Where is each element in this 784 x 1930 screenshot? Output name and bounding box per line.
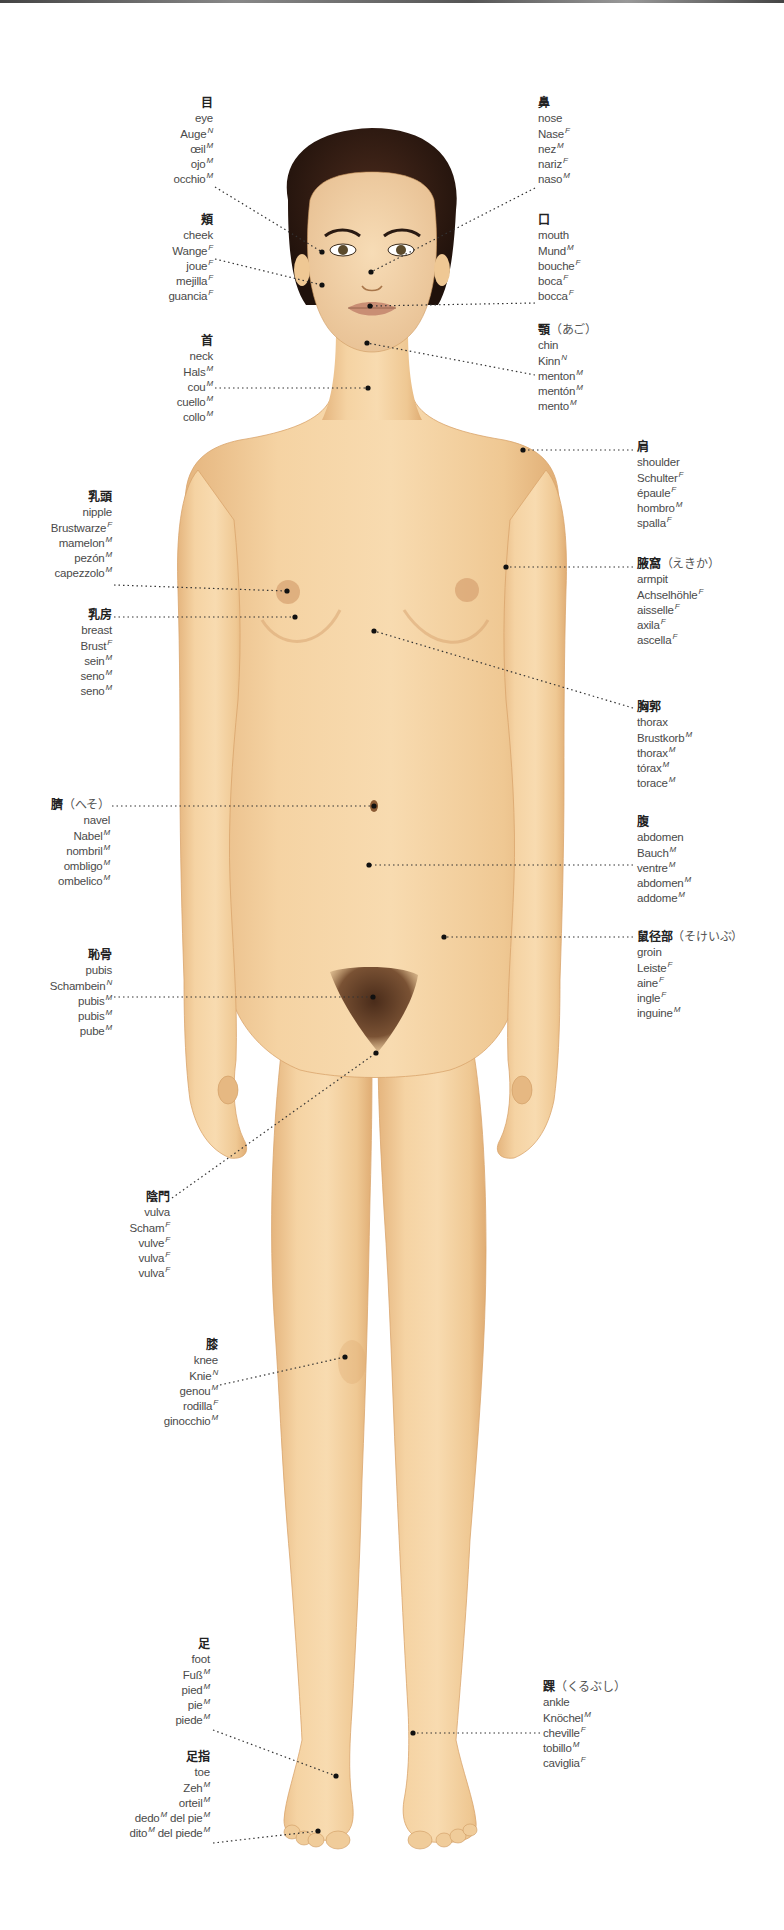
translation-term: ombelicoM <box>51 874 110 889</box>
translation-term: NaseF <box>538 127 570 142</box>
label-abdomen: 腹 abdomenBauchMventreMabdomenMaddomeM <box>637 815 691 907</box>
label-ankle: 踝（くるぶし） ankleKnöchelMchevilleFtobilloMca… <box>543 1680 626 1772</box>
english-term: neck <box>177 349 213 364</box>
translation-term: BrustF <box>80 639 112 654</box>
gender-marker: M <box>676 500 682 509</box>
english-term: armpit <box>637 572 720 587</box>
gender-marker: M <box>570 398 576 407</box>
translation-term: ditoM del piedeM <box>129 1826 210 1841</box>
label-toe-japanese: 足指 <box>129 1750 210 1765</box>
translation-term: ojoM <box>173 157 213 172</box>
english-term: nipple <box>51 505 112 520</box>
marker-dot-mouth <box>367 303 372 308</box>
translation-term: vulveF <box>130 1236 170 1251</box>
marker-dot-nose <box>368 269 373 274</box>
kana-reading: （あご） <box>550 323 597 337</box>
english-term: shoulder <box>637 455 683 470</box>
label-navel: 臍（へそ） navelNabelMnombrilMombligoMombelic… <box>51 798 110 890</box>
english-term: eye <box>173 111 213 126</box>
label-armpit: 腋窩（えきか） armpitAchselhöhleFaisselleFaxila… <box>637 557 720 649</box>
translation-term: pezónM <box>51 551 112 566</box>
gender-marker: F <box>667 515 672 524</box>
gender-marker: M <box>106 668 112 677</box>
label-thorax: 胸郭 thoraxBrustkorbMthoraxMtóraxMtoraceM <box>637 700 692 792</box>
marker-dot-armpit <box>503 564 508 569</box>
gender-marker: M <box>106 683 112 692</box>
english-term: groin <box>637 945 743 960</box>
label-groin: 鼠径部（そけいぶ） groinLeisteFaineFingleFinguine… <box>637 930 743 1022</box>
marker-dot-eye <box>319 249 324 254</box>
gender-marker: N <box>106 978 112 987</box>
label-knee-japanese: 膝 <box>164 1338 218 1353</box>
gender-marker: M <box>204 1825 210 1834</box>
translation-term: chevilleF <box>543 1726 626 1741</box>
kana-reading: （そけいぶ） <box>672 930 743 944</box>
translation-term: ascellaF <box>637 633 720 648</box>
marker-dot-chin <box>364 340 369 345</box>
english-term: knee <box>164 1353 218 1368</box>
marker-dot-groin <box>441 934 446 939</box>
translation-term: tóraxM <box>637 761 692 776</box>
translation-term: guanciaF <box>168 289 213 304</box>
translation-term: BauchM <box>637 846 691 861</box>
gender-marker: M <box>669 860 675 869</box>
label-cheek: 頬 cheekWangeFjoueFmejillaFguanciaF <box>168 213 213 305</box>
gender-marker: M <box>106 565 112 574</box>
marker-dot-vulva <box>373 1050 378 1055</box>
translation-term: ingleF <box>637 991 743 1006</box>
label-mouth-japanese: 口 <box>538 213 580 228</box>
english-term: vulva <box>130 1205 170 1220</box>
translation-term: nasoM <box>538 172 570 187</box>
translation-term: KnöchelM <box>543 1711 626 1726</box>
label-navel-japanese: 臍（へそ） <box>51 798 110 813</box>
translation-term: bocaF <box>538 274 580 289</box>
translation-term: boucheF <box>538 259 580 274</box>
label-breast: 乳房 breastBrustFseinMsenoMsenoM <box>80 608 112 700</box>
label-toe: 足指 toeZehMorteilMdedoM del pieMditoM del… <box>129 1750 210 1842</box>
translation-term: pubisM <box>50 994 112 1009</box>
translation-term: SchambeinN <box>50 979 112 994</box>
translation-term: aisselleF <box>637 603 720 618</box>
translation-term: BrustwarzeF <box>51 521 112 536</box>
translation-term: nezM <box>538 142 570 157</box>
translation-term: axilaF <box>637 618 720 633</box>
gender-marker: M <box>212 1383 218 1392</box>
translation-term: narizF <box>538 157 570 172</box>
gender-marker: F <box>563 273 568 282</box>
gender-marker: M <box>106 653 112 662</box>
translation-term: piedeM <box>175 1713 210 1728</box>
translation-term: colloM <box>177 410 213 425</box>
translation-term: spallaF <box>637 516 683 531</box>
label-vulva-japanese: 陰門 <box>130 1190 170 1205</box>
translation-term: cavigliaF <box>543 1756 626 1771</box>
gender-marker: M <box>204 1795 210 1804</box>
translation-term: joueF <box>168 259 213 274</box>
gender-marker: F <box>165 1265 170 1274</box>
gender-marker: M <box>204 1780 210 1789</box>
marker-dot-foot <box>333 1773 338 1778</box>
kana-reading: （へそ） <box>63 798 110 812</box>
gender-marker: M <box>669 775 675 784</box>
gender-marker: F <box>661 617 666 626</box>
label-foot: 足 footFußMpiedMpieMpiedeM <box>175 1637 210 1729</box>
translation-term: mentónM <box>538 384 597 399</box>
gender-marker: M <box>584 1710 590 1719</box>
label-cheek-japanese: 頬 <box>168 213 213 228</box>
gender-marker: M <box>106 535 112 544</box>
translation-term: ginocchioM <box>164 1414 218 1429</box>
marker-dot-abdomen <box>366 862 371 867</box>
translation-term: AugeN <box>173 127 213 142</box>
gender-marker: F <box>675 602 680 611</box>
label-shoulder: 肩 shoulderSchulterFépauleFhombroMspallaF <box>637 440 683 532</box>
gender-marker: F <box>208 273 213 282</box>
gender-marker: M <box>669 745 675 754</box>
gender-marker: M <box>104 843 110 852</box>
translation-term: abdomenM <box>637 876 691 891</box>
translation-term: pieM <box>175 1698 210 1713</box>
label-ankle-japanese: 踝（くるぶし） <box>543 1680 626 1695</box>
english-term: pubis <box>50 963 112 978</box>
gender-marker: N <box>212 1368 218 1377</box>
translation-term: thoraxM <box>637 746 692 761</box>
gender-marker: M <box>685 730 691 739</box>
translation-term: occhioM <box>173 172 213 187</box>
